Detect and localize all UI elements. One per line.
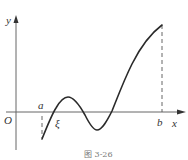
function-graph: y x O a b ξ 图 3-26 [0,0,188,160]
y-axis-arrow-icon [14,15,19,23]
x-axis-label: x [171,117,177,129]
function-curve [42,25,162,139]
origin-label: O [4,114,12,126]
figure-caption: 图 3-26 [84,150,113,159]
y-axis-label: y [5,14,11,26]
xi-label: ξ [55,117,60,130]
b-label: b [157,116,163,128]
a-label: a [38,99,44,111]
x-axis-arrow-icon [177,110,186,115]
